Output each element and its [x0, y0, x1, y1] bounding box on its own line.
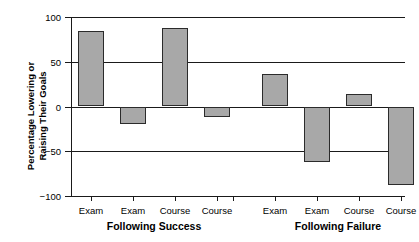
y-axis-title-line2: Raising Their Goals [37, 21, 49, 211]
x-tick-1 [133, 196, 134, 201]
x-tick-label-0: Exam [79, 205, 103, 216]
bar-failure-exam-1 [262, 74, 288, 106]
y-tick-label-50: 50 [50, 57, 61, 68]
y-axis-title-line1: Percentage Lowering or [25, 62, 36, 170]
bar-success-course-1 [162, 28, 188, 107]
y-tick-label-minus-50: −50 [45, 146, 61, 157]
y-axis-line [71, 17, 72, 196]
y-axis-title: Percentage Lowering or Raising Their Goa… [25, 21, 49, 211]
x-tick-group-separator [233, 196, 234, 201]
x-tick-7 [401, 196, 402, 201]
gridline-50 [71, 62, 405, 63]
x-axis-line [71, 196, 405, 197]
gridline-minus-50 [71, 151, 405, 152]
group-label-following-failure: Following Failure [295, 220, 381, 232]
y-tick-label-100: 100 [45, 12, 61, 23]
y-tick-50: 50 [65, 62, 71, 63]
x-tick-6 [359, 196, 360, 201]
group-label-following-success: Following Success [107, 220, 202, 232]
x-tick-label-7: Course [386, 205, 417, 216]
x-tick-4 [275, 196, 276, 201]
bar-failure-course-2 [388, 107, 414, 186]
y-tick-100: 100 [65, 17, 71, 18]
x-tick-label-3: Course [202, 205, 233, 216]
y-tick-minus-100: −100 [65, 196, 71, 197]
x-tick-label-4: Exam [263, 205, 287, 216]
plot-area: 100 50 0 −50 −100 [71, 17, 405, 196]
y-tick-label-0: 0 [56, 102, 61, 113]
bar-success-exam-1 [78, 31, 104, 106]
bar-failure-course-1 [346, 94, 372, 107]
bar-success-course-2 [204, 107, 230, 118]
x-tick-label-2: Course [160, 205, 191, 216]
x-tick-0 [91, 196, 92, 201]
x-tick-2 [175, 196, 176, 201]
x-tick-5 [317, 196, 318, 201]
x-tick-3 [217, 196, 218, 201]
x-tick-label-1: Exam [121, 205, 145, 216]
y-tick-label-minus-100: −100 [40, 191, 61, 202]
bar-success-exam-2 [120, 107, 146, 124]
x-tick-label-5: Exam [305, 205, 329, 216]
y-tick-0: 0 [65, 107, 71, 108]
y-tick-minus-50: −50 [65, 151, 71, 152]
bar-failure-exam-2 [304, 107, 330, 163]
chart-figure: Percentage Lowering or Raising Their Goa… [0, 0, 419, 242]
gridline-100 [71, 17, 405, 18]
x-tick-label-6: Course [344, 205, 375, 216]
